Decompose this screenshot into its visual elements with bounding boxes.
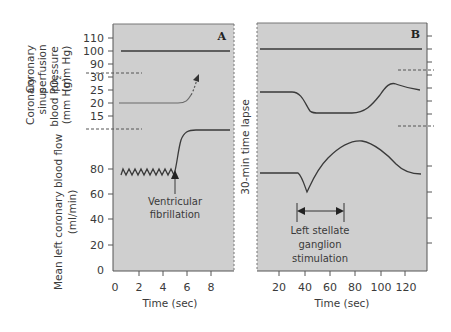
tick-time-a-6: 6 [184, 281, 191, 294]
x-ticks-b [279, 271, 405, 276]
tick-pressure-100: 100 [83, 45, 104, 58]
tick-time-b-40: 40 [298, 281, 312, 294]
x-axis-title-a: Time (sec) [142, 297, 198, 309]
ylabel-po2-line2: sinus [36, 87, 48, 114]
tick-po2-25: 25 [90, 84, 104, 97]
tick-time-b-80: 80 [348, 281, 362, 294]
panel-a-bg [113, 24, 234, 271]
tick-po2-30: 30 [90, 71, 104, 84]
lsg-annotation-line3: stimulation [292, 253, 348, 264]
ylabel-pressure-line2: perfusion [36, 44, 48, 93]
panel-label-a: A [216, 30, 226, 43]
ylabel-flow: Mean left coronary blood flow (ml/min) [52, 134, 78, 290]
tick-time-b-20: 20 [272, 281, 286, 294]
tick-time-b-100: 100 [371, 281, 392, 294]
vf-annotation-line2: fibrillation [150, 209, 200, 220]
tick-flow-60: 60 [90, 188, 104, 201]
tick-flow-80: 80 [90, 163, 104, 176]
tick-flow-40: 40 [90, 213, 104, 226]
lsg-annotation-line2: ganglion [298, 239, 341, 250]
tick-time-a-0: 0 [112, 281, 119, 294]
tick-pressure-110: 110 [83, 32, 104, 45]
tick-pressure-90: 90 [90, 58, 104, 71]
tick-time-b-120: 120 [396, 281, 417, 294]
figure: 110 100 90 30 25 20 15 80 60 40 20 0 0 2… [0, 0, 451, 332]
lsg-annotation-line1: Left stellate [290, 225, 349, 236]
ylabel-po2-line1: Coronary [24, 77, 36, 125]
vf-annotation-line1: Ventricular [148, 196, 203, 207]
ylabel-po2-line4: (mm Hg) [60, 78, 72, 125]
tick-time-b-60: 60 [323, 281, 337, 294]
right-y-ticks [427, 36, 432, 243]
tick-flow-0: 0 [97, 264, 104, 277]
ylabel-flow-line1: Mean left coronary blood flow [52, 134, 64, 290]
left-y-ticks [108, 38, 113, 245]
tick-time-a-8: 8 [208, 281, 215, 294]
tick-time-a-2: 2 [136, 281, 143, 294]
x-ticks-a [139, 271, 211, 276]
tick-po2-15: 15 [90, 110, 104, 123]
ylabel-flow-line2: (ml/min) [66, 190, 78, 235]
time-lapse-label: 30-min time lapse [239, 99, 251, 194]
panel-label-b: B [411, 28, 420, 41]
ylabel-po2: Coronary sinus blood PO2 (mm Hg) [24, 75, 72, 127]
tick-po2-20: 20 [90, 97, 104, 110]
tick-time-a-4: 4 [160, 281, 167, 294]
tick-flow-20: 20 [90, 239, 104, 252]
x-axis-title-b: Time (sec) [314, 297, 370, 309]
